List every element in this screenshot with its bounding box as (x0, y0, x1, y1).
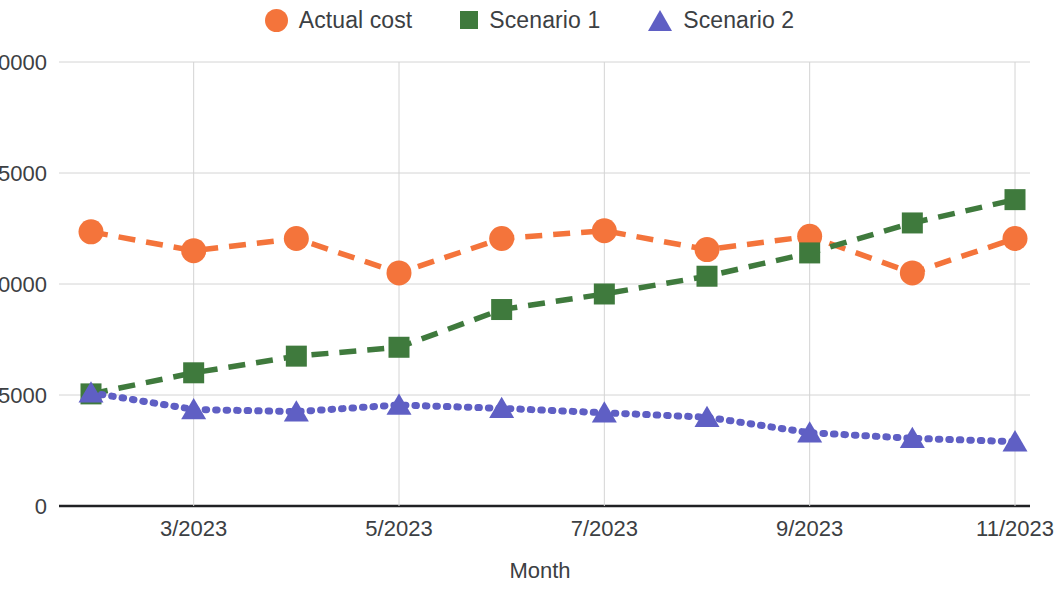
data-point-marker[interactable] (900, 260, 925, 285)
cost-scenario-line-chart: Actual cost Scenario 1 Scenario 2 050001… (0, 0, 1059, 590)
y-axis-tick-label: 0 (35, 494, 47, 519)
x-axis-tick-label: 9/2023 (776, 516, 843, 541)
series-line (91, 231, 1015, 273)
data-series-layer (79, 189, 1028, 451)
x-axis-tick-label: 5/2023 (365, 516, 432, 541)
y-axis-tick-label: 15000 (0, 161, 47, 186)
x-axis-tick-label: 7/2023 (571, 516, 638, 541)
x-axis-title: Month (509, 558, 570, 583)
data-point-marker[interactable] (284, 226, 309, 251)
data-point-marker[interactable] (697, 266, 718, 287)
data-point-marker[interactable] (491, 299, 512, 320)
data-point-marker[interactable] (1005, 189, 1026, 210)
data-point-marker[interactable] (79, 219, 104, 244)
series-scenario-1 (81, 189, 1026, 404)
data-point-marker[interactable] (799, 242, 820, 263)
y-axis-tick-label: 10000 (0, 272, 47, 297)
data-point-marker[interactable] (181, 238, 206, 263)
data-point-marker[interactable] (286, 346, 307, 367)
data-point-marker[interactable] (695, 237, 720, 262)
y-axis-tick-label: 5000 (0, 383, 47, 408)
y-axis-tick-label: 20000 (0, 50, 47, 75)
data-point-marker[interactable] (183, 362, 204, 383)
x-axis-tick-label: 11/2023 (976, 516, 1054, 541)
series-scenario-2 (79, 381, 1028, 451)
series-line (91, 200, 1015, 394)
data-point-marker[interactable] (387, 260, 412, 285)
data-point-marker[interactable] (489, 226, 514, 251)
series-line (91, 393, 1015, 442)
data-point-marker[interactable] (389, 337, 410, 358)
plot-area: 05000100001500020000 3/20235/20237/20239… (0, 0, 1059, 590)
x-axis-tick-label: 3/2023 (160, 516, 227, 541)
data-point-marker[interactable] (902, 212, 923, 233)
data-point-marker[interactable] (592, 218, 617, 243)
plot-svg: 05000100001500020000 3/20235/20237/20239… (0, 0, 1059, 590)
x-axis-tick-labels: 3/20235/20237/20239/202311/2023 (160, 516, 1054, 541)
y-axis-tick-labels: 05000100001500020000 (0, 50, 47, 519)
data-point-marker[interactable] (594, 283, 615, 304)
data-point-marker[interactable] (1003, 226, 1028, 251)
